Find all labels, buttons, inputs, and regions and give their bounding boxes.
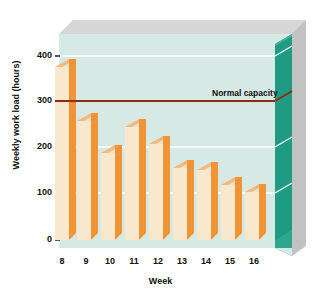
- plot-floor: [59, 240, 292, 256]
- x-axis-title: Week: [0, 276, 321, 286]
- y-tick-300: 300: [26, 95, 52, 105]
- bar-week-11[interactable]: [125, 119, 146, 240]
- plot-outer-right-wall: [292, 20, 306, 256]
- y-tick-100: 100: [26, 187, 52, 197]
- x-tick-week-10: 10: [99, 256, 121, 266]
- bar-week-10[interactable]: [101, 145, 122, 240]
- y-tick-0: 0: [26, 234, 52, 244]
- y-axis-title: Weekly work load (hours): [11, 53, 21, 178]
- normal-capacity-label: Normal capacity: [212, 88, 278, 98]
- bar-week-14[interactable]: [197, 162, 218, 240]
- y-tick-400: 400: [26, 50, 52, 60]
- x-tick-week-11: 11: [123, 256, 145, 266]
- x-tick-week-8: 8: [51, 256, 73, 266]
- bar-week-15[interactable]: [221, 177, 242, 240]
- bar-week-16[interactable]: [245, 184, 266, 240]
- plot-top-slab-shade: [59, 20, 306, 34]
- bar-week-12[interactable]: [149, 136, 170, 240]
- bar-week-13[interactable]: [173, 160, 194, 240]
- x-tick-week-15: 15: [219, 256, 241, 266]
- bar-chart: Weekly work load (hours) Week 400 300 20…: [0, 0, 321, 295]
- x-tick-week-14: 14: [195, 256, 217, 266]
- y-tick-200: 200: [26, 141, 52, 151]
- bar-week-9[interactable]: [77, 113, 98, 240]
- x-tick-week-9: 9: [75, 256, 97, 266]
- x-tick-week-12: 12: [147, 256, 169, 266]
- bar-week-8[interactable]: [55, 59, 76, 240]
- x-tick-week-16: 16: [243, 256, 265, 266]
- x-tick-week-13: 13: [171, 256, 193, 266]
